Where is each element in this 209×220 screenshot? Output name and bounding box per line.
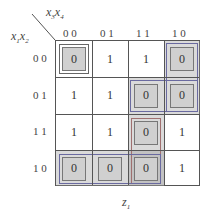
karnaugh-map: 0 1 1 0 1 1 0 0 1 1 0 1 0 0 0 1 bbox=[55, 40, 200, 186]
cell-10-10: 1 bbox=[164, 151, 200, 188]
cell-00-11: 1 bbox=[128, 41, 164, 78]
col-vars-label: x3x4 bbox=[46, 5, 64, 21]
col-header-01: 0 1 bbox=[100, 27, 114, 39]
col-header-00: 0 0 bbox=[63, 27, 77, 39]
cell-11-00: 1 bbox=[56, 114, 92, 151]
cell-01-10: 0 bbox=[164, 78, 200, 115]
row-header-10: 1 0 bbox=[33, 162, 47, 174]
row-vars-label: x1x2 bbox=[11, 29, 29, 45]
cell-00-01: 1 bbox=[92, 41, 128, 78]
row-header-00: 0 0 bbox=[33, 52, 47, 64]
col-header-10: 1 0 bbox=[172, 27, 186, 39]
output-label: z1 bbox=[122, 195, 130, 211]
cell-10-11: 0 bbox=[128, 151, 164, 188]
row-header-11: 1 1 bbox=[33, 125, 47, 137]
cell-00-00: 0 bbox=[56, 41, 92, 78]
cell-11-01: 1 bbox=[92, 114, 128, 151]
row-header-01: 0 1 bbox=[33, 89, 47, 101]
cell-01-11: 0 bbox=[128, 78, 164, 115]
cell-11-10: 1 bbox=[164, 114, 200, 151]
cell-01-00: 1 bbox=[56, 78, 92, 115]
cell-11-11: 0 bbox=[128, 114, 164, 151]
cell-01-01: 1 bbox=[92, 78, 128, 115]
col-header-11: 1 1 bbox=[136, 27, 150, 39]
cell-10-01: 0 bbox=[92, 151, 128, 188]
cell-00-10: 0 bbox=[164, 41, 200, 78]
cell-10-00: 0 bbox=[56, 151, 92, 188]
